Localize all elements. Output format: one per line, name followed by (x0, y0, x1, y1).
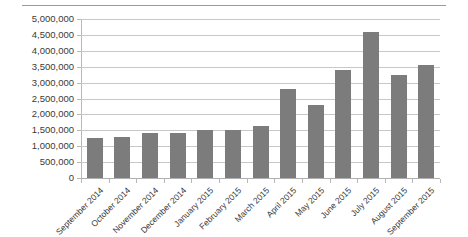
y-axis-tick-label: 5,000,000 (32, 14, 74, 24)
y-axis-tick-mark (77, 162, 81, 163)
gridline (81, 35, 440, 36)
x-axis-category-label: September 2015 (386, 186, 437, 237)
x-axis-category-label: December 2014 (139, 186, 188, 235)
y-axis-tick-mark (77, 83, 81, 84)
x-axis-tick-mark (191, 179, 192, 183)
x-axis-tick-mark (412, 179, 413, 183)
y-axis-tick-mark (77, 35, 81, 36)
y-axis-tick-label: 1,000,000 (32, 141, 74, 151)
x-axis-tick-mark (136, 179, 137, 183)
bar (170, 133, 186, 178)
y-axis-tick-label: 4,000,000 (32, 46, 74, 56)
x-axis-tick-mark (81, 179, 82, 183)
bar (335, 70, 351, 178)
top-divider-rule (22, 5, 446, 6)
gridline (81, 99, 440, 100)
bar (114, 137, 130, 178)
y-axis-tick-labels: 0500,0001,000,0001,500,0002,000,0002,500… (0, 19, 74, 178)
x-axis-tick-mark (274, 179, 275, 183)
gridline (81, 178, 440, 179)
x-axis-tick-mark (302, 179, 303, 183)
x-axis-tick-mark (219, 179, 220, 183)
gridline (81, 67, 440, 68)
y-axis-tick-label: 1,500,000 (32, 125, 74, 135)
x-axis-tick-mark (357, 179, 358, 183)
y-axis-tick-mark (77, 178, 81, 179)
bar-chart-figure: 0500,0001,000,0001,500,0002,000,0002,500… (0, 0, 468, 237)
x-axis-category-label: August 2015 (369, 186, 409, 226)
y-axis-tick-label: 3,500,000 (32, 62, 74, 72)
x-axis-category-label: June 2015 (319, 186, 353, 220)
bar (280, 89, 296, 178)
y-axis-tick-label: 2,500,000 (32, 94, 74, 104)
x-axis-category-label: November 2014 (111, 186, 160, 235)
y-axis-tick-mark (77, 51, 81, 52)
bar (391, 75, 407, 178)
x-axis-category-label: May 2015 (293, 186, 326, 219)
y-axis-tick-label: 2,000,000 (32, 109, 74, 119)
x-axis-tick-mark (164, 179, 165, 183)
y-axis-tick-mark (77, 130, 81, 131)
x-axis-tick-mark (440, 179, 441, 183)
gridline (81, 83, 440, 84)
x-axis-tick-mark (330, 179, 331, 183)
y-axis-tick-mark (77, 67, 81, 68)
y-axis-tick-mark (77, 146, 81, 147)
bar (225, 130, 241, 178)
bar (418, 65, 434, 178)
bar (87, 138, 103, 178)
y-axis-tick-mark (77, 114, 81, 115)
x-axis-category-label: January 2015 (173, 186, 216, 229)
y-axis-tick-label: 4,500,000 (32, 30, 74, 40)
bar (197, 130, 213, 178)
x-axis-category-label: February 2015 (198, 186, 243, 231)
gridline (81, 19, 440, 20)
y-axis-tick-label: 3,000,000 (32, 78, 74, 88)
bar (142, 133, 158, 178)
x-axis-tick-mark (247, 179, 248, 183)
x-axis-tick-mark (109, 179, 110, 183)
x-axis-tick-mark (385, 179, 386, 183)
x-axis-category-label: April 2015 (265, 186, 298, 219)
x-axis-category-label: July 2015 (349, 186, 381, 218)
bar (308, 105, 324, 178)
x-axis-category-label: March 2015 (233, 186, 271, 224)
gridline (81, 51, 440, 52)
gridline (81, 114, 440, 115)
y-axis-tick-mark (77, 99, 81, 100)
bar (253, 126, 269, 178)
plot-area (81, 19, 440, 178)
y-axis-tick-mark (77, 19, 81, 20)
bar (363, 32, 379, 178)
y-axis-tick-label: 0 (69, 173, 74, 183)
y-axis-tick-label: 500,000 (40, 157, 74, 167)
x-axis-category-label: October 2014 (90, 186, 133, 229)
x-axis-category-label: September 2014 (54, 186, 105, 237)
